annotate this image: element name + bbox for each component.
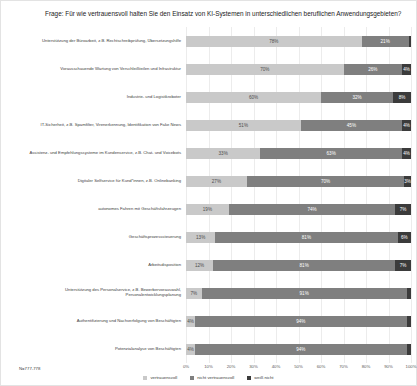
x-tick-label: 100% — [406, 364, 417, 369]
x-tick-label: 90% — [384, 364, 393, 369]
value-label: 63% — [327, 151, 336, 156]
bar-track: 19%74%7% — [186, 204, 411, 215]
value-label: 78% — [269, 39, 278, 44]
value-label: 70% — [321, 179, 330, 184]
value-label: 32% — [352, 95, 361, 100]
value-label: 13% — [196, 235, 205, 240]
category-label: Unterstützung des Personalservice, z.B. … — [1, 288, 186, 298]
category-label: Vorausschauende Wartung von Verschleißte… — [1, 67, 186, 72]
figure: Frage: Für wie vertrauensvoll halten Sie… — [0, 0, 417, 386]
value-label: 74% — [307, 207, 316, 212]
bar-track: 51%45%4% — [186, 120, 411, 131]
x-axis: 0%10%20%30%40%50%60%70%80%90%100% — [186, 364, 411, 372]
category-label: Geschäftsprozesssteuerung — [1, 235, 186, 240]
legend-swatch — [247, 376, 251, 380]
chart-row: autonomes Fahren mit Geschäftsfahrzeugen… — [1, 195, 416, 223]
bar-segment-series0: 4% — [186, 344, 195, 355]
bar-segment-series1: 94% — [195, 316, 407, 327]
chart-row: Vorausschauende Wartung von Verschleißte… — [1, 55, 416, 83]
bar-segment-series2 — [407, 344, 412, 355]
bar-segment-series2: 7% — [395, 260, 411, 271]
legend-item: nicht vertrauensvoll — [190, 375, 234, 380]
legend-label: nicht vertrauensvoll — [197, 375, 234, 380]
bar-track: 12%81%7% — [186, 260, 411, 271]
bar-segment-series1: 63% — [260, 148, 402, 159]
bar-segment-series0: 27% — [186, 176, 247, 187]
category-label: IT-Sicherheit, z.B. Spamfilter, Virenerk… — [1, 123, 186, 128]
bar-segment-series2 — [407, 316, 412, 327]
bar-segment-series1: 81% — [215, 232, 397, 243]
bar-segment-series1: 21% — [362, 36, 409, 47]
bar-segment-series0: 33% — [186, 148, 260, 159]
value-label: 21% — [381, 39, 390, 44]
bar-segment-series2: 3% — [404, 176, 411, 187]
chart-row: Geschäftsprozesssteuerung13%81%6% — [1, 223, 416, 251]
chart-row: Authentifizierung und Nachverfolgung von… — [1, 307, 416, 335]
x-tick-label: 50% — [294, 364, 303, 369]
bar-track: 33%63%4% — [186, 148, 411, 159]
chart-row: Assistenz- und Empfehlungssysteme im Kun… — [1, 139, 416, 167]
value-label: 27% — [212, 179, 221, 184]
value-label: 94% — [296, 319, 305, 324]
value-label: 7% — [400, 207, 407, 212]
bar-segment-series0: 70% — [186, 64, 344, 75]
bar-segment-series0: 60% — [186, 92, 321, 103]
bar-segment-series2 — [409, 36, 411, 47]
value-label: 8% — [399, 95, 406, 100]
category-label: Industrie- und Logistikroboter — [1, 95, 186, 100]
chart-row: Digitaler Selfservice für Kund*innen, z.… — [1, 167, 416, 195]
value-label: 45% — [347, 123, 356, 128]
bar-segment-series1: 94% — [195, 344, 407, 355]
value-label: 12% — [195, 263, 204, 268]
bar-segment-series2: 4% — [402, 64, 411, 75]
value-label: 33% — [219, 151, 228, 156]
value-label: 19% — [203, 207, 212, 212]
bar-track: 27%70%3% — [186, 176, 411, 187]
category-label: autonomes Fahren mit Geschäftsfahrzeugen — [1, 207, 186, 212]
bar-track: 60%32%8% — [186, 92, 411, 103]
category-label: Unterstützung der Büroarbeit, z.B. Recht… — [1, 39, 186, 44]
bar-segment-series1: 91% — [202, 288, 407, 299]
value-label: 81% — [302, 235, 311, 240]
value-label: 91% — [300, 291, 309, 296]
bar-segment-series0: 4% — [186, 316, 195, 327]
bar-segment-series1: 32% — [321, 92, 393, 103]
bar-segment-series2: 8% — [393, 92, 411, 103]
bar-track: 13%81%6% — [186, 232, 411, 243]
x-tick-label: 20% — [227, 364, 236, 369]
value-label: 6% — [401, 235, 408, 240]
value-label: 3% — [404, 179, 411, 184]
x-tick-label: 70% — [339, 364, 348, 369]
category-label: Potenzialanalyse von Beschäftigten — [1, 347, 186, 352]
bar-segment-series1: 45% — [301, 120, 402, 131]
chart-row: Industrie- und Logistikroboter60%32%8% — [1, 83, 416, 111]
x-tick-label: 60% — [317, 364, 326, 369]
legend-label: weiß nicht — [254, 375, 273, 380]
bar-segment-series0: 78% — [186, 36, 362, 47]
bar-segment-series0: 13% — [186, 232, 215, 243]
chart-rows: Unterstützung der Büroarbeit, z.B. Recht… — [1, 27, 416, 363]
bar-segment-series0: 19% — [186, 204, 229, 215]
bar-segment-series2 — [407, 288, 412, 299]
bar-track: 4%94% — [186, 316, 411, 327]
bar-track: 78%21% — [186, 36, 411, 47]
legend-swatch — [190, 376, 194, 380]
bar-segment-series1: 70% — [247, 176, 405, 187]
legend-label: vertrauensvoll — [150, 375, 177, 380]
value-label: 7% — [400, 263, 407, 268]
legend-swatch — [143, 376, 147, 380]
category-label: Arbeitsdisposition — [1, 263, 186, 268]
bar-segment-series2: 6% — [398, 232, 412, 243]
bar-segment-series1: 74% — [229, 204, 396, 215]
bar-segment-series1: 26% — [344, 64, 403, 75]
legend-item: vertrauensvoll — [143, 375, 177, 380]
bar-segment-series2: 4% — [402, 148, 411, 159]
x-tick-label: 10% — [204, 364, 213, 369]
value-label: 7% — [191, 291, 198, 296]
chart-row: Unterstützung des Personalservice, z.B. … — [1, 279, 416, 307]
value-label: 26% — [368, 67, 377, 72]
legend: vertrauensvollnicht vertrauensvollweiß n… — [1, 375, 416, 380]
value-label: 70% — [260, 67, 269, 72]
value-label: 60% — [249, 95, 258, 100]
value-label: 51% — [239, 123, 248, 128]
